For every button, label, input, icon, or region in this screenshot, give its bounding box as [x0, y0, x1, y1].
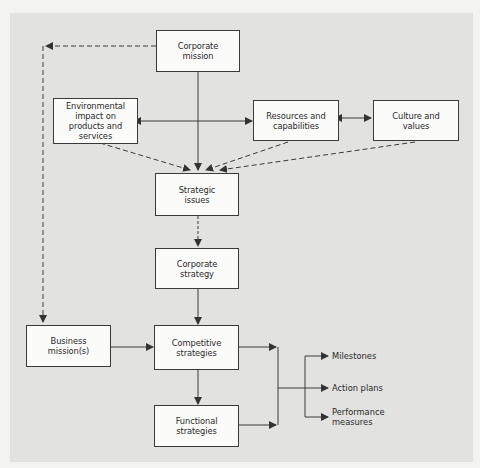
node-functional-strategies: Functional strategies	[154, 405, 239, 447]
node-corporate-strategy: Corporate strategy	[155, 248, 239, 289]
node-strategic-issues: Strategic issues	[155, 173, 239, 216]
connector-lines	[0, 0, 480, 468]
node-label: Functional strategies	[176, 416, 218, 436]
node-label: Culture and values	[392, 111, 439, 131]
node-corporate-mission: Corporate mission	[156, 30, 240, 72]
node-label: Environmental impact on products and ser…	[66, 101, 125, 141]
node-label: Business mission(s)	[48, 336, 89, 356]
node-culture-values: Culture and values	[373, 100, 459, 141]
node-competitive-strategies: Competitive strategies	[154, 325, 239, 370]
node-label: Corporate mission	[178, 41, 219, 61]
node-environmental-impact: Environmental impact on products and ser…	[53, 98, 138, 144]
output-label: Performance measures	[332, 407, 385, 427]
node-resources-capabilities: Resources and capabilities	[253, 100, 339, 141]
output-label: Action plans	[332, 383, 383, 393]
node-label: Competitive strategies	[172, 338, 221, 358]
node-business-missions: Business mission(s)	[26, 325, 111, 367]
output-performance-measures: Performance measures	[332, 407, 385, 427]
node-label: Strategic issues	[179, 185, 216, 205]
node-label: Resources and capabilities	[266, 111, 325, 131]
output-action-plans: Action plans	[332, 383, 383, 393]
node-label: Corporate strategy	[177, 259, 218, 279]
output-milestones: Milestones	[332, 351, 376, 361]
output-label: Milestones	[332, 351, 376, 361]
